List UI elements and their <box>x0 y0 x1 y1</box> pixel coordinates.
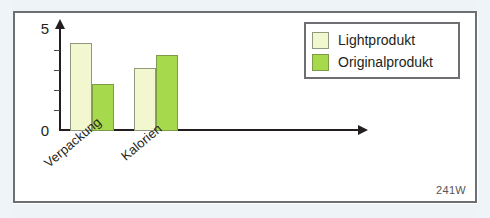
y-tick-4 <box>54 50 60 51</box>
legend-swatch-original-icon <box>312 54 329 71</box>
x-axis-arrow-icon <box>358 125 368 135</box>
legend-label-originalprodukt: Originalprodukt <box>338 55 433 69</box>
y-axis-arrow-icon <box>55 19 65 29</box>
legend-item-originalprodukt: Originalprodukt <box>312 51 452 73</box>
scan-tint-top <box>0 0 490 11</box>
legend-item-lightprodukt: Lightprodukt <box>312 29 452 51</box>
scan-tint-left <box>0 0 13 218</box>
chart-legend: Lightprodukt Originalprodukt <box>304 22 460 79</box>
legend-swatch-light-icon <box>312 32 329 49</box>
scan-tint-right <box>478 0 490 218</box>
bar-kalorien-originalprodukt <box>156 55 178 131</box>
y-axis-label-max: 5 <box>33 21 49 36</box>
y-tick-1 <box>54 110 60 111</box>
y-axis-line <box>59 27 61 131</box>
figure-corner-code: 241W <box>436 184 466 196</box>
figure-frame: 5 0 Verpackung Kalorien Lightprodukt Ori… <box>13 11 477 203</box>
bar-chart-plot-area: 5 0 Verpackung Kalorien Lightprodukt Ori… <box>15 13 475 201</box>
y-tick-2 <box>54 90 60 91</box>
y-tick-3 <box>54 70 60 71</box>
figure-page: 5 0 Verpackung Kalorien Lightprodukt Ori… <box>0 0 490 218</box>
scan-tint-bottom <box>0 204 490 218</box>
legend-label-lightprodukt: Lightprodukt <box>338 33 415 47</box>
y-axis-label-min: 0 <box>33 123 49 138</box>
